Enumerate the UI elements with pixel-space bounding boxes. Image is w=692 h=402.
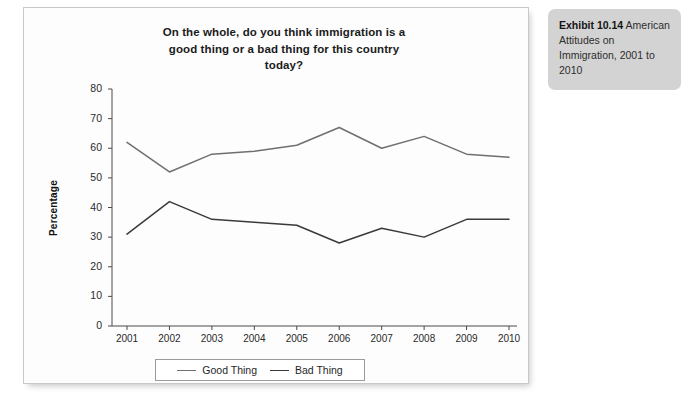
legend-swatch-bad-thing <box>270 370 289 371</box>
y-axis-tick-label: 10 <box>66 289 102 301</box>
y-axis-tick-label: 50 <box>66 171 102 183</box>
y-axis-tick-label: 0 <box>66 319 102 331</box>
legend-label-bad-thing: Bad Thing <box>295 364 343 376</box>
legend-label-good-thing: Good Thing <box>202 364 257 376</box>
y-axis-tick-label: 70 <box>66 112 102 124</box>
y-axis-tick-label: 60 <box>66 141 102 153</box>
series-line-good-thing <box>127 128 509 172</box>
plot-area: Percentage 01020304050607080200120022003… <box>24 8 530 385</box>
chart-legend: Good Thing Bad Thing <box>155 359 365 381</box>
legend-swatch-good-thing <box>177 370 196 371</box>
exhibit-caption: Exhibit 10.14 American Attitudes on Immi… <box>548 9 681 90</box>
y-axis-tick-label: 40 <box>66 201 102 213</box>
y-axis-tick-label: 20 <box>66 260 102 272</box>
exhibit-number: Exhibit 10.14 <box>559 19 623 31</box>
legend-item-bad-thing: Bad Thing <box>270 364 343 376</box>
y-axis-tick-label: 80 <box>66 82 102 94</box>
legend-item-good-thing: Good Thing <box>177 364 257 376</box>
figure-panel: On the whole, do you think immigration i… <box>23 7 529 384</box>
y-axis-tick-label: 30 <box>66 230 102 242</box>
x-axis-tick-label: 2010 <box>484 333 534 344</box>
series-line-bad-thing <box>127 202 509 243</box>
